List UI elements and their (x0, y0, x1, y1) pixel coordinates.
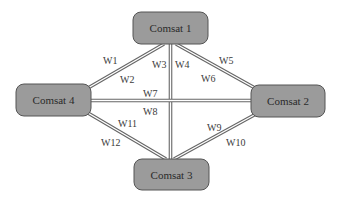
node-c4: Comsat 4 (16, 84, 91, 116)
link-label-w4: W4 (175, 59, 189, 70)
node-c3: Comsat 3 (134, 159, 209, 190)
link-label-w6: W6 (201, 73, 215, 84)
node-c2: Comsat 2 (251, 85, 325, 117)
node-c1: Comsat 1 (133, 12, 208, 44)
node-label: Comsat 4 (33, 94, 75, 106)
link-label-w3: W3 (152, 59, 166, 70)
link-label-w7: W7 (143, 88, 157, 99)
link-label-w1: W1 (103, 55, 117, 66)
link-label-w5: W5 (219, 55, 233, 66)
link-label-w9: W9 (207, 122, 221, 133)
node-label: Comsat 2 (267, 95, 309, 107)
node-label: Comsat 1 (150, 22, 192, 34)
comsat-network-diagram: W1W2W3W4W5W6W7W8W9W10W11W12 Comsat 1Coms… (0, 0, 341, 202)
node-label: Comsat 3 (151, 169, 193, 181)
link-label-w10: W10 (226, 137, 245, 148)
link-label-w8: W8 (143, 106, 157, 117)
link-label-w12: W12 (101, 137, 120, 148)
link-label-w11: W11 (118, 118, 137, 129)
link-label-w2: W2 (120, 74, 134, 85)
